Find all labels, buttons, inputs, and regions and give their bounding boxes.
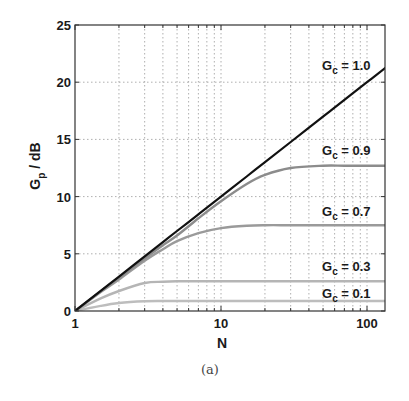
- x-axis-label: N: [217, 335, 227, 351]
- series-label: Gc = 0.9: [322, 143, 371, 161]
- y-axis-label: Gp / dB: [27, 142, 47, 189]
- y-tick-label: 5: [64, 247, 71, 262]
- x-tick-label: 1: [71, 316, 78, 331]
- coherent-gain-chart: 0510152025110100 Gc = 1.0Gc = 0.9Gc = 0.…: [0, 0, 409, 401]
- curve-labels: Gc = 1.0Gc = 0.9Gc = 0.7Gc = 0.3Gc = 0.1: [322, 58, 371, 304]
- y-axis-label-main: G: [27, 179, 43, 190]
- figure-caption: (a): [201, 362, 219, 377]
- series-curve: [75, 301, 385, 311]
- y-tick-label: 0: [64, 304, 71, 319]
- series-label: Gc = 0.3: [322, 259, 371, 277]
- series-curve: [75, 68, 385, 311]
- y-tick-label: 10: [57, 190, 71, 205]
- series-label: Gc = 1.0: [322, 58, 371, 76]
- series-label: Gc = 0.7: [322, 204, 371, 222]
- x-tick-label: 100: [356, 316, 378, 331]
- y-tick-label: 15: [57, 132, 71, 147]
- y-tick-label: 25: [57, 18, 71, 33]
- data-curves: [75, 68, 385, 311]
- svg-text:Gp / dB: Gp / dB: [27, 142, 47, 189]
- y-axis-label-rest: / dB: [27, 142, 43, 172]
- x-tick-label: 10: [214, 316, 228, 331]
- y-tick-label: 20: [57, 75, 71, 90]
